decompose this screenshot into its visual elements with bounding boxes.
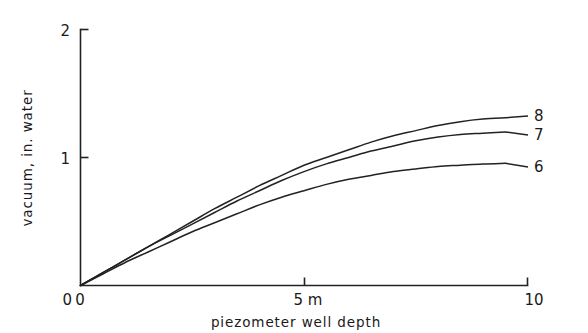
x-axis-title: piezometer well depth — [211, 314, 381, 330]
y-tick-label-2: 2 — [60, 22, 70, 40]
leader-group — [505, 116, 528, 167]
x-tick-label-0: 0 — [75, 291, 85, 309]
curve-series-0 — [81, 118, 506, 286]
curve-group — [81, 118, 506, 286]
series-label-7: 7 — [534, 126, 544, 144]
curve-series-1 — [81, 132, 506, 286]
x-tick-label-5m: 5 m — [294, 291, 323, 309]
chart-figure: 2 1 0 0 5 m 10 vacuum, in. water piezome… — [0, 0, 588, 333]
leader-series-1 — [505, 132, 528, 135]
y-tick-label-0: 0 — [62, 291, 72, 309]
x-tick-label-10: 10 — [524, 291, 543, 309]
curve-series-2 — [81, 163, 506, 285]
series-label-6: 6 — [534, 158, 544, 176]
series-label-8: 8 — [534, 107, 544, 125]
line-chart: 2 1 0 0 5 m 10 vacuum, in. water piezome… — [0, 0, 588, 333]
leader-series-2 — [505, 163, 528, 167]
y-axis-title: vacuum, in. water — [19, 89, 35, 226]
leader-series-0 — [505, 116, 528, 118]
y-tick-label-1: 1 — [60, 150, 70, 168]
